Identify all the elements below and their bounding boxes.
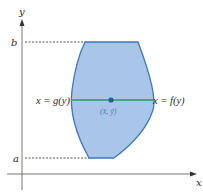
centroid-label: (x̄, ȳ) <box>100 107 117 116</box>
left-boundary-label: x = g(y) <box>35 95 70 107</box>
b-label: b <box>11 37 17 48</box>
x-axis-label: x <box>196 177 202 188</box>
centroid-diagram: y x b a x = g(y) x = f(y) (x̄, ȳ) <box>0 0 203 193</box>
y-axis-arrow-icon <box>20 19 25 26</box>
right-boundary-label: x = f(y) <box>152 95 185 107</box>
y-axis-label: y <box>18 6 25 17</box>
a-label: a <box>13 153 19 164</box>
x-axis-arrow-icon <box>190 172 197 177</box>
centroid-dot <box>108 97 113 102</box>
